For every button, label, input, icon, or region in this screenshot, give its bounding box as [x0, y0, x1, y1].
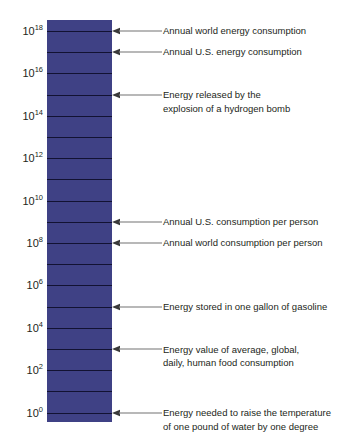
tick-exponent: 18 — [35, 23, 43, 32]
axis-tick-label: 1012 — [22, 153, 43, 164]
callout-arrow-icon — [112, 302, 162, 311]
tick-exponent: 14 — [35, 108, 43, 117]
annotation-text: Annual world consumption per person — [163, 236, 322, 250]
grid-line — [47, 201, 112, 202]
tick-base: 10 — [27, 406, 39, 418]
axis-tick-label: 1018 — [22, 26, 43, 37]
grid-line — [47, 370, 112, 371]
callout-arrow-icon — [112, 408, 162, 417]
axis-tick-label: 1014 — [22, 110, 43, 121]
log-scale-bar — [47, 20, 112, 422]
axis-tick-label: 106 — [27, 280, 43, 291]
annotation-text: Annual U.S. consumption per person — [163, 215, 318, 229]
tick-base: 10 — [22, 152, 34, 164]
grid-line — [47, 307, 112, 308]
axis-tick-labels: 10181016101410121010108106104102100 — [0, 0, 43, 439]
annotation-text: Energy stored in one gallon of gasoline — [163, 300, 327, 314]
tick-exponent: 4 — [39, 320, 43, 329]
tick-base: 10 — [27, 237, 39, 249]
tick-base: 10 — [22, 67, 34, 79]
grid-line — [47, 243, 112, 244]
tick-exponent: 0 — [39, 404, 43, 413]
tick-base: 10 — [22, 25, 34, 37]
axis-tick-label: 102 — [27, 365, 43, 376]
grid-line — [47, 285, 112, 286]
grid-line — [47, 179, 112, 180]
tick-exponent: 8 — [39, 235, 43, 244]
tick-exponent: 10 — [35, 192, 43, 201]
axis-tick-label: 1010 — [22, 195, 43, 206]
grid-line — [47, 116, 112, 117]
annotation-line-1: Energy value of average, global, — [163, 343, 299, 354]
axis-tick-label: 1016 — [22, 68, 43, 79]
annotation-line-1: Energy needed to raise the temperature — [163, 407, 331, 418]
tick-base: 10 — [27, 321, 39, 333]
grid-line — [47, 73, 112, 74]
grid-line — [47, 413, 112, 414]
tick-exponent: 2 — [39, 362, 43, 371]
tick-base: 10 — [22, 194, 34, 206]
grid-line — [47, 52, 112, 53]
callout-arrow-icon — [112, 90, 162, 99]
annotation-text: Energy value of average, global,daily, h… — [163, 342, 299, 369]
axis-tick-label: 108 — [27, 238, 43, 249]
grid-line — [47, 137, 112, 138]
annotation-line-2: daily, human food consumption — [163, 356, 299, 370]
annotation-line-1: Annual world energy consumption — [163, 25, 306, 36]
axis-tick-label: 100 — [27, 407, 43, 418]
axis-tick-label: 104 — [27, 322, 43, 333]
grid-line — [47, 264, 112, 265]
annotation-text: Energy needed to raise the temperatureof… — [163, 406, 331, 433]
grid-line — [47, 222, 112, 223]
callout-arrow-icon — [112, 345, 162, 354]
callout-arrow-icon — [112, 239, 162, 248]
tick-base: 10 — [22, 109, 34, 121]
callout-arrow-icon — [112, 217, 162, 226]
grid-line — [47, 328, 112, 329]
annotation-line-1: Annual world consumption per person — [163, 237, 322, 248]
callout-arrow-icon — [112, 48, 162, 57]
tick-base: 10 — [27, 364, 39, 376]
annotation-text: Energy released by theexplosion of a hyd… — [163, 88, 290, 115]
tick-exponent: 12 — [35, 150, 43, 159]
annotation-line-2: of one pound of water by one degree — [163, 419, 331, 433]
grid-line — [47, 349, 112, 350]
annotation-line-1: Annual U.S. energy consumption — [163, 46, 302, 57]
annotation-line-2: explosion of a hydrogen bomb — [163, 101, 290, 115]
callout-arrow-icon — [112, 27, 162, 36]
grid-line — [47, 391, 112, 392]
tick-exponent: 6 — [39, 277, 43, 286]
annotation-text: Annual U.S. energy consumption — [163, 45, 302, 59]
annotation-line-1: Energy stored in one gallon of gasoline — [163, 301, 327, 312]
grid-line — [47, 95, 112, 96]
annotation-line-1: Energy released by the — [163, 89, 261, 100]
tick-base: 10 — [27, 279, 39, 291]
grid-line — [47, 158, 112, 159]
grid-line — [47, 31, 112, 32]
annotation-line-1: Annual U.S. consumption per person — [163, 216, 318, 227]
energy-scale-figure: 10181016101410121010108106104102100 Annu… — [0, 0, 360, 439]
tick-exponent: 16 — [35, 65, 43, 74]
annotation-text: Annual world energy consumption — [163, 24, 306, 38]
